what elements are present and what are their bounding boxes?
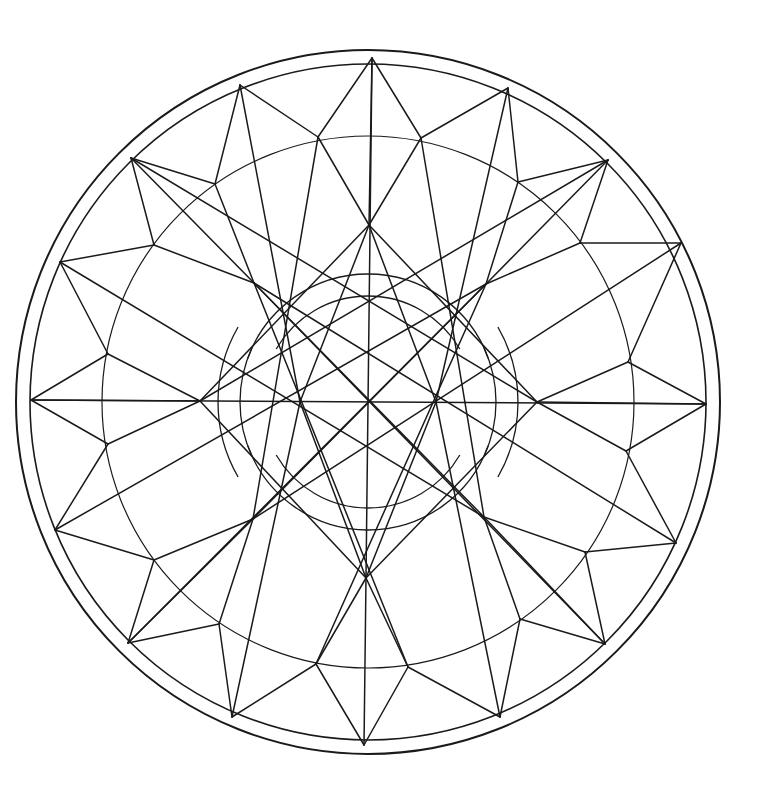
line-segment: [537, 362, 628, 402]
line-segment: [318, 137, 369, 225]
line-segment: [628, 362, 706, 404]
line-segment: [128, 624, 219, 643]
line-segment: [585, 543, 676, 552]
line-segment: [31, 400, 108, 444]
line-segment: [364, 667, 408, 745]
line-segment: [484, 517, 520, 619]
line-segment: [219, 624, 232, 717]
line-segment: [316, 578, 366, 664]
line-segment: [318, 58, 372, 137]
line-segment: [366, 402, 436, 578]
line-segment: [215, 184, 254, 283]
line-segment: [108, 354, 200, 401]
line-segment: [580, 160, 608, 243]
line-segment: [254, 283, 408, 667]
line-segment: [421, 88, 508, 138]
line-segment: [316, 284, 486, 664]
line-segment: [316, 664, 364, 745]
line-segment: [60, 245, 154, 262]
line-segment: [131, 158, 154, 245]
line-segment: [486, 243, 580, 284]
line-segment: [240, 85, 318, 137]
line-segment: [31, 354, 108, 400]
mandala-drawing: [0, 0, 765, 804]
line-segment: [366, 578, 408, 667]
star-line-segments: [31, 58, 706, 745]
line-segment: [364, 578, 366, 745]
line-segment: [500, 619, 520, 717]
line-segment: [369, 138, 421, 225]
line-segment: [254, 283, 676, 543]
line-segment: [55, 444, 108, 530]
line-segment: [232, 664, 316, 717]
line-segment: [408, 667, 500, 717]
line-segment: [31, 400, 200, 401]
line-segment: [366, 402, 537, 578]
line-segment: [626, 451, 676, 543]
line-segment: [154, 245, 254, 283]
line-segment: [55, 530, 154, 560]
line-segment: [518, 160, 608, 182]
line-segment: [232, 402, 300, 717]
mandala-canvas: Geometric mandala line drawing: [0, 0, 765, 804]
line-segment: [585, 552, 605, 644]
line-segment: [508, 88, 518, 182]
line-segment: [108, 401, 200, 444]
line-segment: [215, 85, 240, 184]
line-segment: [626, 404, 706, 451]
inner-arc: [218, 327, 238, 477]
line-segment: [372, 58, 421, 138]
line-segment: [537, 402, 626, 451]
line-segment: [154, 519, 253, 560]
line-segment: [436, 88, 508, 402]
